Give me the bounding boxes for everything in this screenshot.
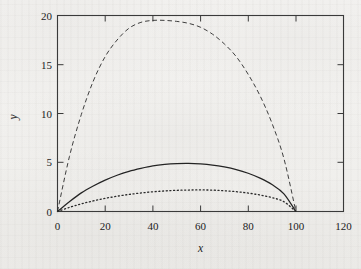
y-axis-tick-labels: 0 5 10 15 20 bbox=[41, 10, 53, 218]
series-lower-curve bbox=[58, 190, 296, 212]
series-middle-curve bbox=[58, 163, 296, 211]
y-tick-label-10: 10 bbox=[41, 108, 53, 120]
data-series-group bbox=[58, 20, 296, 211]
x-axis-title: x bbox=[197, 242, 204, 254]
x-tick-label-0: 0 bbox=[55, 220, 61, 232]
y-axis-title: y bbox=[7, 114, 20, 121]
y-tick-label-0: 0 bbox=[47, 206, 53, 218]
x-tick-label-40: 40 bbox=[147, 220, 159, 232]
y-tick-label-15: 15 bbox=[41, 59, 53, 71]
x-tick-label-80: 80 bbox=[243, 220, 255, 232]
x-tick-label-100: 100 bbox=[288, 220, 305, 232]
x-tick-label-60: 60 bbox=[195, 220, 207, 232]
figure-page: 0 5 10 15 20 0 20 40 bbox=[0, 0, 361, 269]
y-tick-label-5: 5 bbox=[47, 156, 53, 168]
plot-canvas: 0 5 10 15 20 0 20 40 bbox=[0, 0, 361, 269]
x-axis-tick-labels: 0 20 40 60 80 100 120 bbox=[55, 220, 353, 232]
y-tick-label-20: 20 bbox=[41, 10, 53, 22]
series-upper-curve bbox=[58, 20, 296, 211]
x-tick-label-120: 120 bbox=[335, 220, 352, 232]
x-tick-label-20: 20 bbox=[100, 220, 112, 232]
